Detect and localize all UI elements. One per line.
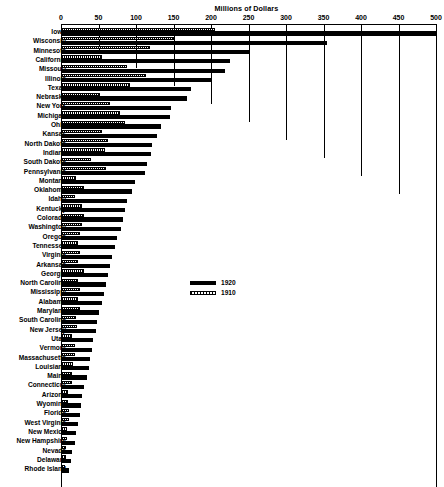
bar-1910-alabama [61,297,78,300]
bar-1920-alabama [61,301,102,305]
bar-1910-oregon [61,232,80,235]
chart-axis-title: Millions of Dollars [215,4,279,13]
bar-1920-wisconsin [61,41,327,45]
x-tick-label-0: 0 [59,14,63,21]
bar-1910-north-carolina [61,279,78,282]
bar-row: Illinois [0,74,444,83]
bar-row: Utah [0,334,444,343]
bar-1910-new-hampshire [61,437,67,440]
bar-1910-minnesota [61,46,150,49]
bar-row: Indiana [0,148,444,157]
bar-1910-colorado [61,214,84,217]
bar-1920-montana [61,180,135,184]
bar-1920-new-jersey [61,329,96,333]
x-tick-label-250: 250 [243,14,255,21]
bar-1910-new-mexico [61,427,67,430]
bar-1920-virginia [61,255,112,259]
bar-1910-ohio [61,121,125,124]
bar-1910-maine [61,372,72,375]
bar-row: North Dakota [0,139,444,148]
bar-1920-georgia [61,273,108,277]
bar-1910-wisconsin [61,37,174,40]
bar-1920-michigan [61,115,170,119]
bar-1920-west-virginia [61,422,78,426]
bar-row: Michigan [0,111,444,120]
bar-1920-oklahoma [61,189,132,193]
bar-1920-arkansas [61,264,110,268]
state-label-new-hampshire: New Hampshire [17,436,66,445]
state-label-rhode-island: Rhode Island [25,464,66,473]
bar-row: West Virginia [0,418,444,427]
bar-1920-new-hampshire [61,441,75,445]
bar-1920-north-carolina [61,282,106,286]
bar-1920-idaho [61,199,127,203]
bar-row: Kentucky [0,204,444,213]
bar-1910-montana [61,176,76,179]
bar-1910-virginia [61,251,80,254]
bar-1910-missouri [61,65,127,68]
bar-row: Missouri [0,64,444,73]
bar-row: Nevada [0,446,444,455]
bar-row: Wyoming [0,399,444,408]
state-label-north-dakota: North Dakota [25,139,66,148]
bar-1920-maryland [61,310,99,314]
bar-1910-nebraska [61,93,100,96]
x-axis-line [61,24,437,25]
state-label-massachusetts: Massachusetts [19,353,66,362]
bar-1910-connecticut [61,381,72,384]
x-tick-label-200: 200 [205,14,217,21]
bar-row: Connecticut [0,380,444,389]
bar-1920-wyoming [61,403,81,407]
state-label-north-carolina: North Carolina [20,278,66,287]
bar-1910-louisiana [61,362,73,365]
bar-1910-nevada [61,446,66,449]
bar-1910-arizona [61,390,68,393]
bar-1910-vermont [61,344,75,347]
bar-row: South Carolina [0,315,444,324]
bar-row: Florida [0,408,444,417]
bar-1920-nevada [61,450,72,454]
bar-1920-delaware [61,459,71,463]
bar-row: Delaware [0,455,444,464]
bar-1910-massachusetts [61,353,75,356]
bar-1920-vermont [61,348,92,352]
bar-1910-iowa [61,28,215,31]
legend-label-1910: 1910 [221,289,236,297]
bar-1920-florida [61,413,80,417]
bar-row: Tennessee [0,241,444,250]
bar-row: Louisiana [0,362,444,371]
bar-1910-indiana [61,148,105,151]
bar-row: South Dakota [0,157,444,166]
bar-1920-massachusetts [61,357,90,361]
bar-1910-tennessee [61,241,78,244]
bar-1920-rhode-island [61,468,69,472]
x-tick-label-50: 50 [95,14,103,21]
bar-1910-new-york [61,102,110,105]
x-tick-label-150: 150 [168,14,180,21]
bar-1920-kentucky [61,208,125,212]
bar-1920-indiana [61,152,151,156]
bar-1910-kansas [61,130,102,133]
bar-row: Maine [0,371,444,380]
x-tick-label-100: 100 [130,14,142,21]
bar-row: Arizona [0,390,444,399]
bar-row: Oregon [0,232,444,241]
hatched-swatch [190,291,216,296]
bar-1920-oregon [61,236,117,240]
bar-1920-iowa [61,31,436,35]
bar-1920-arizona [61,394,82,398]
bar-row: Alabama [0,297,444,306]
bar-1920-minnesota [61,50,249,54]
state-label-west-virginia: West Virginia [24,418,66,427]
bar-1910-rhode-island [61,465,65,468]
bar-1910-georgia [61,269,84,272]
bar-1920-north-dakota [61,143,152,147]
bar-1910-south-dakota [61,158,91,161]
bar-1910-maryland [61,307,80,310]
bar-1920-washington [61,227,121,231]
bar-1920-south-carolina [61,320,97,324]
bar-1910-kentucky [61,204,82,207]
bar-1920-connecticut [61,385,84,389]
state-label-pennsylvania: Pennsylvania [24,167,66,176]
bar-row: Montana [0,176,444,185]
